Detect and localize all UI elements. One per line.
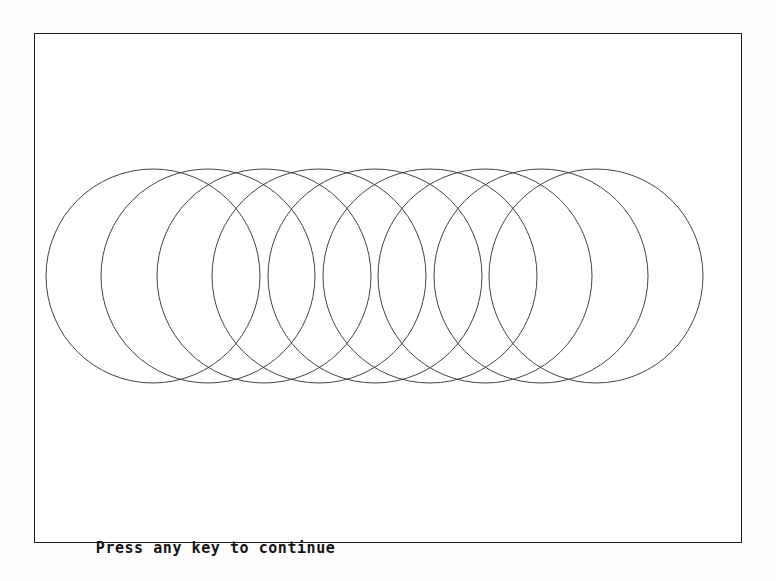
circle-1 [46,169,260,383]
circle-2 [101,169,315,383]
circles-vector-graphic [35,34,743,544]
circle-6 [323,169,537,383]
circle-5 [268,169,482,383]
drawing-canvas [35,34,743,544]
circle-3 [157,169,371,383]
circle-7 [378,169,592,383]
circle-8 [434,169,648,383]
circle-4 [212,169,426,383]
graphics-viewport-frame: Press any key to continue [34,33,742,543]
press-any-key-prompt: Press any key to continue [96,539,336,557]
circle-9 [489,169,703,383]
application-screen: Press any key to continue [0,0,776,581]
prompt-bar: Press any key to continue [38,521,335,539]
